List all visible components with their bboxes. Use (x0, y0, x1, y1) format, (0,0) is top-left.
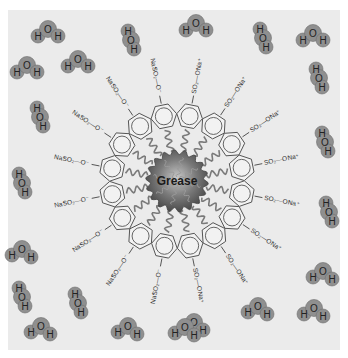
hydrocarbon-tail (127, 184, 148, 193)
hydrocarbon-tail (165, 131, 174, 152)
atom-label: H (244, 307, 251, 318)
atom-label: H (263, 309, 270, 320)
sodium-ion-label: Na⁺ (236, 74, 249, 88)
water-molecule: HOH (296, 25, 330, 48)
atom-label: O (319, 266, 327, 277)
atom-label: H (328, 274, 335, 285)
water-molecule: HOH (297, 300, 330, 324)
surfactant-molecule: SO₂—O⁻Na⁺ (177, 210, 206, 304)
sodium-ion-label: Na⁺ (149, 291, 158, 304)
atom-label: H (133, 329, 140, 340)
water-molecule: HOH (12, 281, 32, 313)
water-molecule: HOH (253, 22, 273, 54)
atom-label: H (202, 25, 209, 36)
water-molecule: HOH (315, 126, 335, 158)
surfactant-molecule: SO₂—O⁻Na⁺ (206, 152, 300, 181)
atom-label: O (18, 244, 26, 255)
water-molecule: HOH (61, 51, 95, 74)
atom-label: H (54, 31, 61, 42)
atom-label: O (37, 321, 45, 332)
atom-label: H (318, 82, 325, 93)
sodium-ion-label: Na⁺ (54, 153, 67, 162)
hydrocarbon-tail (126, 169, 148, 177)
atom-label: H (328, 216, 335, 227)
atom-label: H (299, 35, 306, 46)
water-molecule: HOH (121, 24, 141, 56)
hydrocarbon-tail (148, 206, 161, 226)
sodium-ion-label: Na⁺ (54, 199, 67, 208)
atom-label: H (309, 272, 316, 283)
atom-label: O (74, 54, 82, 65)
atom-label: H (114, 327, 121, 338)
atom-label: H (33, 67, 40, 78)
sodium-ion-label: Na⁺ (287, 198, 300, 207)
hydrocarbon-tail (133, 152, 153, 165)
surfactant-molecule: SO₂—O⁻Na⁺ (206, 181, 300, 208)
atom-label: O (254, 301, 262, 312)
hydrocarbon-tail (146, 139, 161, 157)
water-molecule: HOH (179, 15, 213, 38)
sodium-ion-label: Na⁺ (197, 291, 206, 304)
atom-label: H (130, 44, 137, 55)
atom-label: H (300, 309, 307, 320)
atom-label: H (13, 67, 20, 78)
hydrocarbon-tail (192, 206, 207, 224)
hydrocarbon-tail (194, 137, 207, 157)
atom-label: H (77, 307, 84, 318)
hydrocarbon-tail (202, 198, 222, 211)
water-molecule: HOH (10, 57, 44, 80)
sodium-ion-label: Na⁺ (238, 272, 251, 286)
surfactant-molecule: SO₂—O⁻Na⁺ (177, 57, 204, 151)
water-molecule: HOH (241, 298, 274, 322)
water-molecule: HOH (111, 318, 144, 342)
atom-label: H (182, 25, 189, 36)
surfactant-molecule: SO₂—O⁻Na⁺ (149, 58, 176, 152)
atom-label: H (34, 31, 41, 42)
hydrocarbon-tail (206, 185, 228, 193)
atom-label: H (27, 252, 34, 263)
atom-label: H (171, 328, 178, 339)
water-molecule: HOH (24, 318, 57, 342)
hydrocarbon-tail (135, 196, 153, 211)
atom-label: O (192, 18, 200, 29)
hydrocarbon-tail (202, 150, 220, 165)
hydrocarbon-tail (180, 210, 189, 231)
water-molecule: HOH (30, 101, 50, 133)
hydrocarbon-tail (165, 210, 173, 232)
water-molecule: HOH (319, 196, 339, 228)
water-molecule: HOH (68, 287, 88, 319)
micelle-diagram: SO₂—O⁻Na⁺SO₂—O⁻Na⁺SO₂—O⁻Na⁺SO₂—O⁻Na⁺SO₂—… (0, 0, 348, 358)
atom-label: H (84, 61, 91, 72)
water-molecule: HOH (31, 21, 65, 44)
atom-label: H (46, 329, 53, 340)
atom-label: H (319, 35, 326, 46)
grease-label: Grease (157, 174, 198, 188)
atom-label: H (319, 311, 326, 322)
surfactant-molecule: SO₂—O⁻Na⁺ (54, 153, 148, 181)
atom-label: O (23, 60, 31, 71)
hydrocarbon-tail (181, 130, 189, 152)
water-molecule: HOH (309, 62, 329, 94)
atom-label: H (262, 42, 269, 53)
sodium-ion-label: Na⁺ (287, 152, 300, 161)
sodium-ion-label: Na⁺ (149, 58, 158, 71)
water-molecule: HOH (12, 167, 32, 199)
hydrocarbon-tail (206, 169, 227, 178)
surfactant-molecule: SO₂—O⁻Na⁺ (54, 181, 148, 208)
sodium-ion-label: Na⁺ (268, 108, 282, 121)
atom-label: O (124, 321, 132, 332)
water-molecule: HOH (306, 263, 339, 287)
atom-label: O (44, 24, 52, 35)
atom-label: O (181, 322, 189, 333)
atom-label: H (21, 301, 28, 312)
sodium-ion-label: Na⁺ (270, 240, 284, 253)
atom-label: O (310, 303, 318, 314)
water-molecule: HOH (5, 241, 38, 265)
atom-label: H (190, 330, 197, 341)
atom-label: H (21, 187, 28, 198)
sodium-ion-label: Na⁺ (194, 57, 203, 70)
atom-label: H (324, 146, 331, 157)
atom-label: H (27, 327, 34, 338)
atom-label: O (309, 28, 317, 39)
atom-label: H (39, 121, 46, 132)
